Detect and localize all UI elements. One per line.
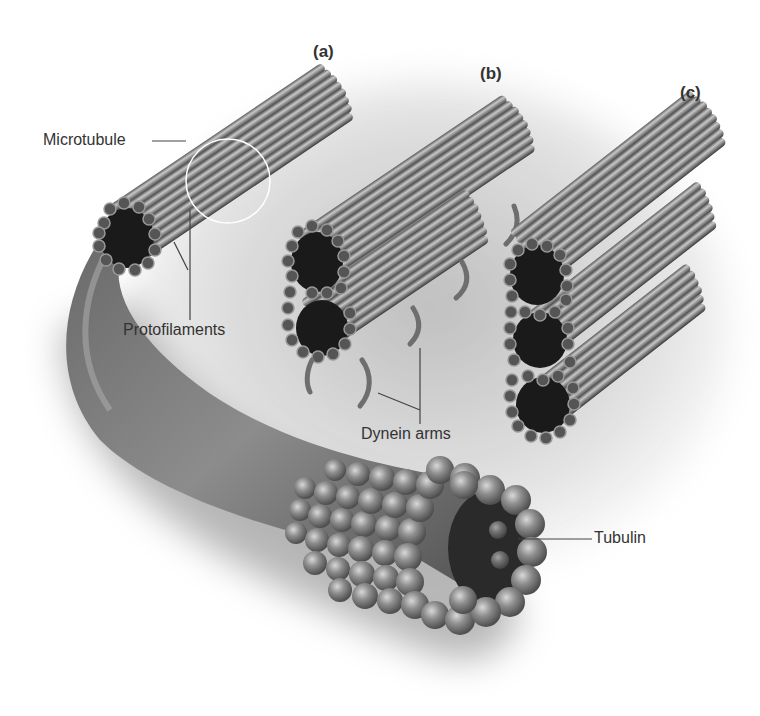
label-dynein-arms: Dynein arms <box>361 425 451 443</box>
panel-label-b: (b) <box>480 64 502 84</box>
label-protofilaments: Protofilaments <box>123 321 225 339</box>
label-microtubule: Microtubule <box>43 131 126 149</box>
label-tubulin: Tubulin <box>594 529 646 547</box>
microtubule-diagram: (a) (b) (c) Microtubule Protofilaments D… <box>0 0 760 716</box>
panel-label-a: (a) <box>313 42 334 62</box>
panel-label-c: (c) <box>680 83 701 103</box>
